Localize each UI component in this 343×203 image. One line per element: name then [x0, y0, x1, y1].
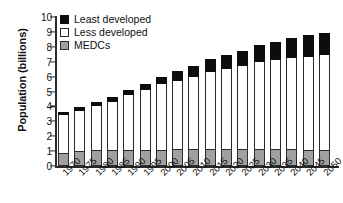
bar-1995: [140, 84, 151, 166]
y-axis-tick-mark: [50, 121, 55, 122]
bar-segment-less-developed: [156, 84, 167, 150]
legend-item-least-developed: Least developed: [60, 13, 151, 25]
legend-swatch-icon: [60, 28, 69, 37]
bar-2020: [221, 55, 232, 166]
bar-segment-less-developed: [254, 62, 265, 149]
y-axis-tick-label: 4: [0, 101, 52, 112]
y-axis-tick-mark: [50, 165, 55, 166]
bar-2045: [303, 35, 314, 166]
legend-swatch-icon: [60, 15, 69, 24]
legend-label: Less developed: [74, 26, 148, 38]
bar-segment-less-developed: [140, 90, 151, 150]
legend-label: MEDCs: [74, 39, 110, 51]
bar-segment-less-developed: [205, 72, 216, 149]
bar-segment-less-developed: [221, 69, 232, 149]
y-axis-tick-label: 7: [0, 56, 52, 67]
bar-2035: [270, 42, 281, 166]
bar-segment-least-developed: [270, 42, 281, 61]
bar-2030: [254, 45, 265, 166]
bar-segment-less-developed: [58, 115, 69, 153]
y-axis-tick-label: 0: [0, 161, 52, 172]
bar-segment-less-developed: [270, 60, 281, 149]
bar-segment-less-developed: [319, 55, 330, 150]
bar-1990: [123, 90, 134, 166]
bar-2010: [188, 66, 199, 166]
bar-2025: [237, 51, 248, 166]
y-axis-tick-mark: [50, 106, 55, 107]
bar-2015: [205, 59, 216, 166]
y-axis-tick-label: 8: [0, 41, 52, 52]
y-axis-tick-mark: [50, 76, 55, 77]
bar-segment-least-developed: [254, 45, 265, 62]
y-axis-tick-mark: [50, 31, 55, 32]
bar-segment-least-developed: [188, 66, 199, 77]
bar-1970: [58, 112, 69, 166]
bar-segment-less-developed: [303, 57, 314, 150]
bar-segment-least-developed: [156, 77, 167, 85]
bar-2005: [172, 71, 183, 166]
bar-2040: [286, 38, 297, 166]
legend-item-medcs: MEDCs: [60, 39, 151, 51]
bar-segment-less-developed: [74, 111, 85, 151]
bar-segment-least-developed: [237, 51, 248, 67]
legend-swatch-icon: [60, 41, 69, 50]
y-axis-tick-label: 6: [0, 71, 52, 82]
bar-segment-least-developed: [286, 38, 297, 58]
population-stacked-bar-chart: Population (billions) 109876543210 19701…: [0, 0, 343, 203]
bar-2000: [156, 77, 167, 166]
bar-segment-less-developed: [172, 81, 183, 150]
y-axis-tick-label: 1: [0, 146, 52, 157]
bar-segment-least-developed: [172, 71, 183, 80]
y-axis-tick-label: 9: [0, 26, 52, 37]
bar-segment-least-developed: [205, 59, 216, 72]
y-axis-tick-label: 3: [0, 116, 52, 127]
bar-segment-least-developed: [303, 35, 314, 56]
y-axis-tick-mark: [50, 136, 55, 137]
y-axis-tick-label: 5: [0, 86, 52, 97]
legend-label: Least developed: [74, 13, 151, 25]
y-axis-tick-mark: [50, 16, 55, 17]
bar-segment-least-developed: [221, 55, 232, 69]
bar-2050: [319, 33, 330, 166]
y-axis-tick-label: 10: [0, 12, 52, 23]
bar-segment-less-developed: [286, 58, 297, 150]
y-axis-tick-mark: [50, 61, 55, 62]
bar-segment-less-developed: [123, 95, 134, 149]
y-axis-tick-mark: [50, 91, 55, 92]
legend-item-less-developed: Less developed: [60, 26, 151, 38]
bar-segment-less-developed: [107, 102, 118, 150]
y-axis-tick-mark: [50, 46, 55, 47]
y-axis-tick-label: 2: [0, 131, 52, 142]
bar-segment-least-developed: [319, 33, 330, 55]
y-axis-tick-mark: [50, 151, 55, 152]
bar-segment-less-developed: [188, 77, 199, 149]
bar-segment-less-developed: [91, 106, 102, 151]
bar-segment-less-developed: [237, 66, 248, 149]
chart-legend: Least developedLess developedMEDCs: [60, 13, 151, 51]
